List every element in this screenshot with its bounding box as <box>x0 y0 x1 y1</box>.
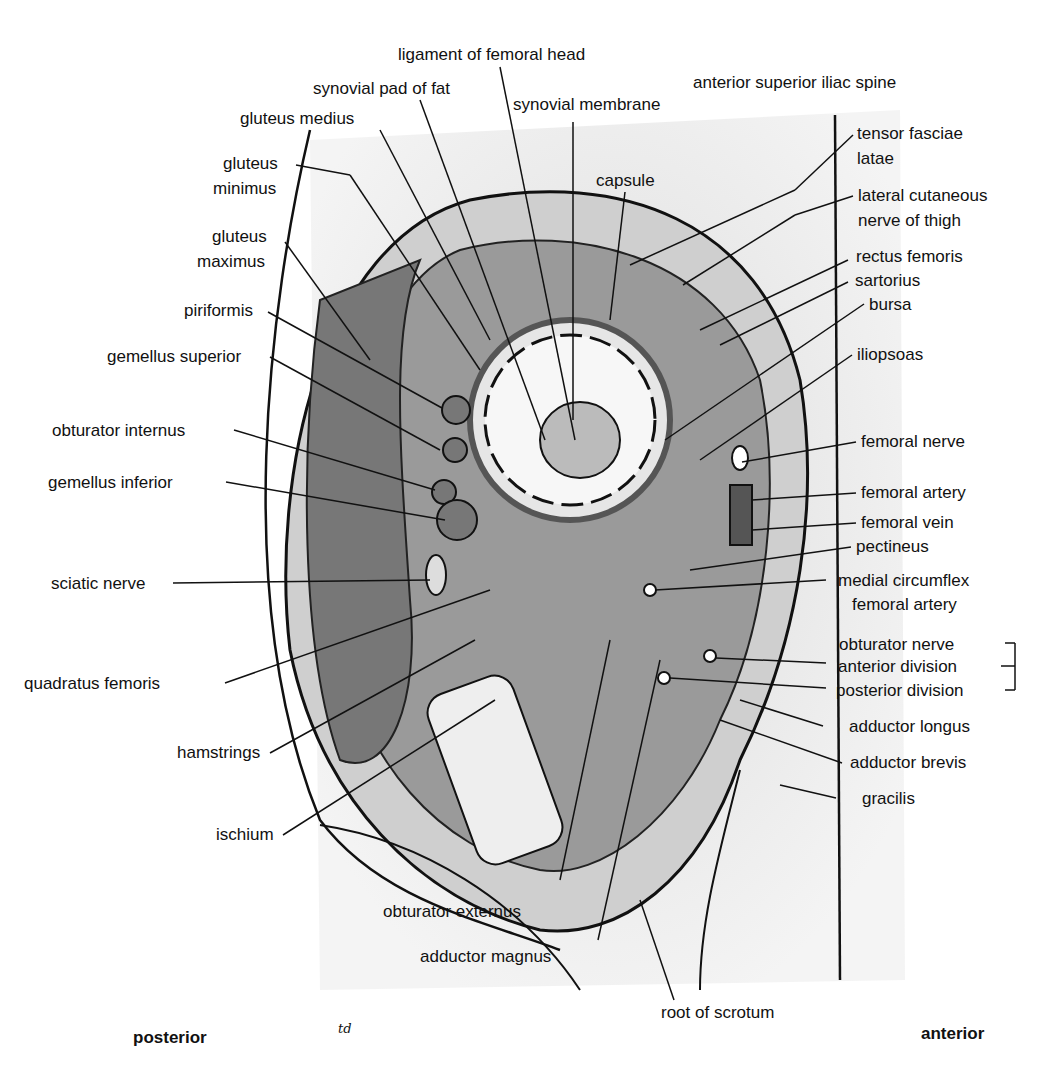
label-iliopsoas: iliopsoas <box>857 344 923 365</box>
orientation-posterior: posterior <box>133 1027 207 1048</box>
orientation-anterior: anterior <box>921 1023 984 1044</box>
label-capsule: capsule <box>596 170 655 191</box>
label-gemellus-inferior: gemellus inferior <box>48 472 173 493</box>
label-ligament-femoral-head: ligament of femoral head <box>398 44 585 65</box>
label-sartorius: sartorius <box>855 270 920 291</box>
label-pectineus: pectineus <box>856 536 929 557</box>
label-synovial-membrane: synovial membrane <box>513 94 660 115</box>
label-medial-circumflex-line2: femoral artery <box>852 594 957 615</box>
label-bursa: bursa <box>869 294 912 315</box>
label-rectus-femoris: rectus femoris <box>856 246 963 267</box>
label-gluteus-maximus-line2: maximus <box>197 251 265 272</box>
label-adductor-brevis: adductor brevis <box>850 752 966 773</box>
label-gluteus-minimus-line1: gluteus <box>223 153 278 174</box>
label-adductor-longus: adductor longus <box>849 716 970 737</box>
label-gluteus-minimus-line2: minimus <box>213 178 276 199</box>
label-lateral-cutaneous-line1: lateral cutaneous <box>858 185 987 206</box>
label-anterior-division: anterior division <box>838 656 957 677</box>
label-gluteus-maximus-line1: gluteus <box>212 226 267 247</box>
label-ischium: ischium <box>216 824 274 845</box>
label-synovial-pad: synovial pad of fat <box>313 78 450 99</box>
label-adductor-magnus: adductor magnus <box>420 946 551 967</box>
label-lateral-cutaneous-line2: nerve of thigh <box>858 210 961 231</box>
label-femoral-artery: femoral artery <box>861 482 966 503</box>
label-asis: anterior superior iliac spine <box>693 72 896 93</box>
label-gluteus-medius: gluteus medius <box>240 108 354 129</box>
label-gemellus-superior: gemellus superior <box>107 346 241 367</box>
label-root-of-scrotum: root of scrotum <box>661 1002 774 1023</box>
label-tensor-fasciae-line2: latae <box>857 148 894 169</box>
label-posterior-division: posterior division <box>836 680 964 701</box>
label-sciatic-nerve: sciatic nerve <box>51 573 145 594</box>
label-femoral-vein: femoral vein <box>861 512 954 533</box>
label-tensor-fasciae-line1: tensor fasciae <box>857 123 963 144</box>
label-gracilis: gracilis <box>862 788 915 809</box>
label-piriformis: piriformis <box>184 300 253 321</box>
label-obturator-externus: obturator externus <box>383 901 521 922</box>
label-hamstrings: hamstrings <box>177 742 260 763</box>
label-medial-circumflex-line1: medial circumflex <box>838 570 969 591</box>
label-femoral-nerve: femoral nerve <box>861 431 965 452</box>
artist-signature: td <box>338 1018 352 1039</box>
label-obturator-internus: obturator internus <box>52 420 185 441</box>
label-obturator-nerve: obturator nerve <box>839 634 954 655</box>
label-quadratus-femoris: quadratus femoris <box>24 673 160 694</box>
